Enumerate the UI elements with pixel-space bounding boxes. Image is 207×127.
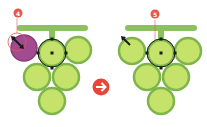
grape[interactable] xyxy=(134,64,160,90)
grape[interactable] xyxy=(24,64,50,90)
anchor-point[interactable] xyxy=(174,52,177,55)
next-arrow xyxy=(93,79,110,96)
grape[interactable] xyxy=(175,38,201,64)
center-point xyxy=(51,52,54,55)
step-badge-label: 5 xyxy=(153,11,157,18)
grape[interactable] xyxy=(53,64,79,90)
grape[interactable] xyxy=(119,38,145,64)
anchor-point[interactable] xyxy=(37,52,40,55)
panel-step-4: 4 xyxy=(8,9,91,115)
anchor-point[interactable] xyxy=(51,67,54,70)
grape[interactable] xyxy=(39,88,65,114)
anchor-point[interactable] xyxy=(51,38,54,41)
grape[interactable] xyxy=(148,88,174,114)
anchor-point[interactable] xyxy=(160,67,163,70)
center-point xyxy=(160,52,163,55)
anchor-point[interactable] xyxy=(146,52,149,55)
anchor-point[interactable] xyxy=(65,52,68,55)
grape[interactable] xyxy=(163,64,189,90)
grape[interactable] xyxy=(65,37,91,63)
grape-diagram: 4 5 xyxy=(0,0,207,127)
panel-step-5: 5 xyxy=(119,10,201,115)
anchor-point[interactable] xyxy=(160,38,163,41)
step-badge-label: 4 xyxy=(16,10,20,17)
